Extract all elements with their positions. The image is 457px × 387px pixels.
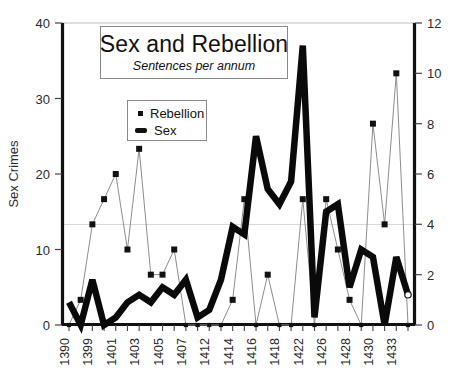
right-axis: 12 10 8 6 4 2 0 xyxy=(415,16,442,333)
rebellion-point xyxy=(370,121,376,127)
rebellion-point xyxy=(184,323,188,327)
legend-item-sex: Sex xyxy=(135,122,206,139)
x-tick-label-1428: 1428 xyxy=(339,338,353,366)
right-tick-6: 6 xyxy=(427,167,434,182)
series-rebellion xyxy=(67,70,410,327)
x-tick-label-1433: 1433 xyxy=(385,338,399,366)
rebellion-point xyxy=(171,247,177,253)
rebellion-point xyxy=(335,247,341,253)
x-tick-label-1422: 1422 xyxy=(292,338,306,366)
series-sex xyxy=(69,46,411,325)
x-tick-label-1401: 1401 xyxy=(105,338,119,366)
rebellion-point xyxy=(323,196,329,202)
right-tick-10: 10 xyxy=(427,66,441,81)
x-tick-label-1414: 1414 xyxy=(222,338,236,366)
right-tick-4: 4 xyxy=(427,217,434,232)
x-tick-label-1418: 1418 xyxy=(268,338,282,366)
x-tick-label-1416: 1416 xyxy=(245,338,259,366)
rebellion-point xyxy=(406,323,410,327)
rebellion-point xyxy=(195,323,199,327)
x-tick-label-1407: 1407 xyxy=(175,338,189,366)
chart-subtitle: Sentences per annum xyxy=(133,59,255,74)
sex-line xyxy=(69,46,408,325)
legend-item-rebellion: Rebellion xyxy=(135,105,206,122)
right-tick-12: 12 xyxy=(427,16,441,31)
chart-title-box: Sex and Rebellion Sentences per annum xyxy=(100,26,288,79)
rebellion-point xyxy=(254,323,258,327)
left-tick-10: 10 xyxy=(36,243,50,258)
x-tick-label-1430: 1430 xyxy=(362,338,376,366)
page-title: Sex and Rebellion xyxy=(100,32,288,57)
right-tick-2: 2 xyxy=(427,268,434,283)
x-tick-label-1405: 1405 xyxy=(152,338,166,366)
x-tick-label-1399: 1399 xyxy=(81,338,95,366)
y-axis-title: Sex Crimes xyxy=(6,140,21,208)
x-axis: 1390139914011403140514071412141414161418… xyxy=(58,325,415,366)
rebellion-line xyxy=(69,73,408,325)
rebellion-point xyxy=(89,221,95,227)
rebellion-point xyxy=(289,323,293,327)
thick-line-swatch-icon xyxy=(135,128,147,133)
rebellion-point xyxy=(359,323,363,327)
square-marker-icon xyxy=(138,111,143,116)
rebellion-point xyxy=(148,272,154,278)
sex-endpoint-marker xyxy=(405,292,411,298)
legend-label-sex: Sex xyxy=(154,123,176,138)
chart-legend: Rebellion Sex xyxy=(127,100,207,141)
right-tick-0: 0 xyxy=(427,318,434,333)
x-tick-label-1403: 1403 xyxy=(128,338,142,366)
x-axis-tick-labels: 1390139914011403140514071412141414161418… xyxy=(58,338,399,366)
left-tick-20: 20 xyxy=(36,167,50,182)
rebellion-point xyxy=(207,323,211,327)
rebellion-point xyxy=(78,297,84,303)
rebellion-point xyxy=(67,323,71,327)
left-axis: 40 30 20 10 0 Sex Crimes xyxy=(6,16,63,333)
rebellion-point xyxy=(113,171,119,177)
rebellion-point xyxy=(300,196,306,202)
rebellion-point xyxy=(393,70,399,76)
rebellion-point xyxy=(101,196,107,202)
x-tick-label-1412: 1412 xyxy=(198,338,212,366)
rebellion-point xyxy=(382,221,388,227)
x-tick-label-1390: 1390 xyxy=(58,338,72,366)
right-tick-8: 8 xyxy=(427,117,434,132)
rebellion-point xyxy=(230,297,236,303)
rebellion-point xyxy=(160,272,166,278)
rebellion-point xyxy=(265,272,271,278)
rebellion-point xyxy=(124,247,130,253)
rebellion-point xyxy=(312,323,316,327)
rebellion-point xyxy=(347,297,353,303)
rebellion-point xyxy=(136,146,142,152)
x-tick-label-1426: 1426 xyxy=(315,338,329,366)
rebellion-point xyxy=(277,323,281,327)
left-tick-40: 40 xyxy=(36,16,50,31)
left-tick-0: 0 xyxy=(43,318,50,333)
chart-root: 40 30 20 10 0 Sex Crimes 12 10 8 6 4 2 xyxy=(0,0,457,387)
left-tick-30: 30 xyxy=(36,92,50,107)
rebellion-point xyxy=(219,323,223,327)
legend-label-rebellion: Rebellion xyxy=(150,106,204,121)
